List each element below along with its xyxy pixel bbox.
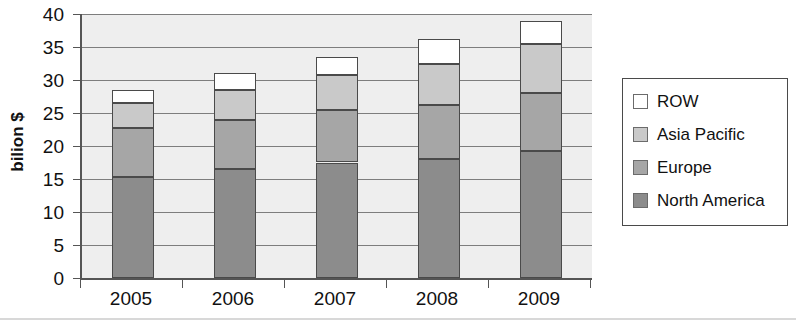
x-tick-label-2006: 2006 [188, 288, 278, 310]
bar-segment-north-america [112, 177, 154, 278]
bar-segment-north-america [214, 169, 256, 278]
plot-inner [82, 14, 592, 278]
legend-label: ROW [657, 92, 699, 112]
y-tick-mark [73, 212, 80, 213]
legend-label: Asia Pacific [657, 125, 745, 145]
bar-segment-europe [418, 105, 460, 158]
bar-segment-europe [316, 110, 358, 163]
bar-2005 [112, 14, 154, 278]
bar-segment-row [214, 73, 256, 90]
x-tick-label-2005: 2005 [86, 288, 176, 310]
y-tick-label: 25 [18, 104, 64, 123]
x-tick-mark [284, 280, 285, 288]
y-tick-mark [73, 179, 80, 180]
bar-segment-asia-pacific [418, 64, 460, 105]
x-tick-label-2009: 2009 [494, 288, 584, 310]
y-tick-label: 40 [18, 5, 64, 24]
y-tick-mark [73, 245, 80, 246]
bar-segment-row [112, 90, 154, 103]
bar-segment-row [316, 57, 358, 75]
legend-item-europe[interactable]: Europe [633, 151, 787, 184]
legend-swatch-icon [633, 127, 648, 142]
x-tick-label-2008: 2008 [392, 288, 482, 310]
bar-segment-row [418, 39, 460, 64]
x-tick-label-2007: 2007 [290, 288, 380, 310]
legend-item-north-america[interactable]: North America [633, 184, 787, 217]
legend-swatch-icon [633, 160, 648, 175]
plot-area [80, 14, 592, 280]
chart-legend: ROWAsia PacificEuropeNorth America [622, 78, 788, 226]
x-tick-mark [590, 280, 591, 288]
bar-segment-europe [214, 120, 256, 170]
x-tick-mark [182, 280, 183, 288]
bar-segment-north-america [316, 163, 358, 279]
y-tick-mark [73, 80, 80, 81]
y-tick-label: 15 [18, 170, 64, 189]
legend-label: Europe [657, 158, 712, 178]
bar-segment-asia-pacific [112, 103, 154, 128]
bar-segment-north-america [418, 159, 460, 278]
y-tick-mark [73, 146, 80, 147]
bar-segment-asia-pacific [316, 75, 358, 109]
y-tick-label: 35 [18, 38, 64, 57]
x-tick-mark [488, 280, 489, 288]
legend-swatch-icon [633, 94, 648, 109]
y-tick-label: 10 [18, 203, 64, 222]
y-tick-mark [73, 47, 80, 48]
bar-2007 [316, 14, 358, 278]
bar-2006 [214, 14, 256, 278]
stacked-bar-chart: bilion $ 0510152025303540 20052006200720… [0, 0, 796, 320]
bar-segment-asia-pacific [520, 44, 562, 93]
bar-segment-row [520, 21, 562, 45]
y-tick-label: 0 [18, 269, 64, 288]
y-tick-label: 5 [18, 236, 64, 255]
y-tick-mark [73, 14, 80, 15]
legend-label: North America [657, 191, 765, 211]
bar-segment-north-america [520, 151, 562, 278]
legend-item-asia-pacific[interactable]: Asia Pacific [633, 118, 787, 151]
bar-segment-europe [112, 128, 154, 177]
legend-item-row[interactable]: ROW [633, 85, 787, 118]
y-tick-label: 30 [18, 71, 64, 90]
bar-2008 [418, 14, 460, 278]
legend-swatch-icon [633, 193, 648, 208]
x-tick-mark [386, 280, 387, 288]
y-tick-mark [73, 278, 80, 279]
bar-segment-asia-pacific [214, 90, 256, 120]
bar-2009 [520, 14, 562, 278]
bar-segment-europe [520, 93, 562, 151]
x-tick-mark-origin [80, 280, 81, 288]
y-tick-mark [73, 113, 80, 114]
y-tick-label: 20 [18, 137, 64, 156]
